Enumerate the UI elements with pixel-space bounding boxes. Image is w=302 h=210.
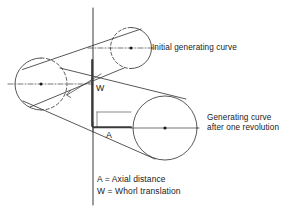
- whorl-translation-letter-label: W: [96, 83, 104, 94]
- legend-whorl-translation: W = Whorl translation: [97, 186, 181, 197]
- legend-axial-distance: A = Axial distance: [97, 174, 166, 185]
- left-circle-center-dot: [40, 83, 43, 86]
- upper-tangent-line-top: [23, 29, 142, 70]
- generating-curve-label-line1: Generating curve: [207, 113, 271, 124]
- axial-distance-letter-label: A: [106, 130, 112, 141]
- initial-circle-center-dot: [130, 47, 133, 50]
- revolved-circle-center-dot: [163, 126, 166, 129]
- initial-generating-curve-label: Initial generating curve: [152, 43, 237, 54]
- lower-tangent-line-top: [60, 68, 186, 99]
- whorl-diagram-figure: Initial generating curve Generating curv…: [0, 0, 302, 210]
- generating-curve-label-line2: after one revolution: [207, 123, 279, 134]
- upper-tangent-line-bottom: [30, 68, 124, 107]
